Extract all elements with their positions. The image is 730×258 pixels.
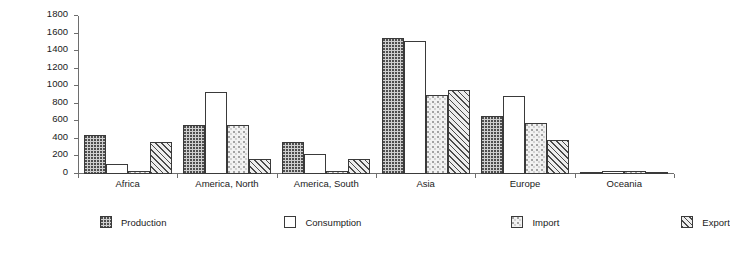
x-tick — [575, 174, 576, 178]
legend-swatch-icon — [284, 216, 296, 228]
bar-group: Africa — [78, 16, 177, 174]
x-axis-category-label: Europe — [510, 178, 541, 189]
bar[interactable] — [304, 154, 326, 174]
x-axis-category-label: Asia — [416, 178, 434, 189]
bar[interactable] — [404, 41, 426, 174]
x-tick — [78, 174, 79, 178]
chart-legend: ProductionConsumptionImportExport — [100, 216, 600, 228]
x-tick — [277, 174, 278, 178]
y-tick-label: 1600 — [47, 26, 68, 37]
bar-group-bars — [277, 16, 376, 174]
bar[interactable] — [150, 142, 172, 174]
y-tick-label: 0 — [63, 166, 68, 177]
bar-group-bars — [376, 16, 475, 174]
bar-group-bars — [575, 16, 674, 174]
y-tick-label: 1800 — [47, 8, 68, 19]
bar-group: Oceania — [575, 16, 674, 174]
bar[interactable] — [205, 92, 227, 175]
bar-group-bars — [475, 16, 574, 174]
y-tick-label: 200 — [52, 148, 68, 159]
bar[interactable] — [183, 125, 205, 174]
bar[interactable] — [448, 90, 470, 174]
x-axis-category-label: America, North — [195, 178, 258, 189]
bar[interactable] — [84, 135, 106, 175]
x-axis-category-label: Africa — [116, 178, 140, 189]
bar[interactable] — [547, 140, 569, 174]
bar[interactable] — [580, 172, 602, 174]
x-tick — [177, 174, 178, 178]
bar[interactable] — [426, 95, 448, 174]
legend-swatch-icon — [100, 216, 112, 228]
legend-label: Export — [702, 217, 729, 228]
bar[interactable] — [525, 123, 547, 174]
bar[interactable] — [348, 159, 370, 174]
x-axis-category-label: Oceania — [607, 178, 642, 189]
bar[interactable] — [106, 164, 128, 174]
bar[interactable] — [382, 38, 404, 174]
bar-group-bars — [78, 16, 177, 174]
legend-label: Production — [121, 217, 166, 228]
bar[interactable] — [624, 171, 646, 174]
legend-item[interactable]: Import — [511, 216, 559, 228]
bar-group: America, South — [277, 16, 376, 174]
x-tick — [674, 174, 675, 178]
bar[interactable] — [602, 171, 624, 174]
bar[interactable] — [503, 96, 525, 174]
bar-group: Europe — [475, 16, 574, 174]
y-tick-label: 600 — [52, 113, 68, 124]
bar-group: Asia — [376, 16, 475, 174]
x-axis-category-label: America, South — [294, 178, 359, 189]
y-tick-label: 400 — [52, 131, 68, 142]
x-tick — [475, 174, 476, 178]
bar[interactable] — [128, 171, 150, 174]
bar[interactable] — [326, 171, 348, 174]
legend-item[interactable]: Export — [681, 216, 729, 228]
y-tick-label: 800 — [52, 96, 68, 107]
legend-label: Import — [532, 217, 559, 228]
legend-label: Consumption — [305, 217, 361, 228]
bar-group-bars — [177, 16, 276, 174]
legend-swatch-icon — [681, 216, 693, 228]
x-tick — [376, 174, 377, 178]
legend-item[interactable]: Consumption — [284, 216, 361, 228]
y-tick-label: 1200 — [47, 61, 68, 72]
bar[interactable] — [481, 116, 503, 174]
legend-swatch-icon — [511, 216, 523, 228]
bar[interactable] — [227, 125, 249, 174]
bar[interactable] — [249, 159, 271, 174]
legend-item[interactable]: Production — [100, 216, 166, 228]
bar[interactable] — [646, 172, 668, 174]
y-tick-label: 1400 — [47, 43, 68, 54]
y-tick-label: 1000 — [47, 78, 68, 89]
plot-area: 020040060080010001200140016001800 Africa… — [78, 16, 674, 174]
bar[interactable] — [282, 142, 304, 174]
bar-group: America, North — [177, 16, 276, 174]
